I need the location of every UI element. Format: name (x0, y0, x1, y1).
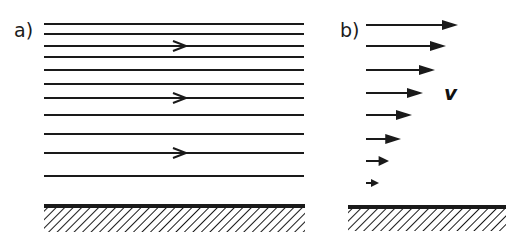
arrow-right-icon (379, 156, 389, 166)
arrow-right-icon (385, 134, 401, 144)
panel-a: a) (14, 19, 305, 232)
arrow-right-icon (396, 110, 412, 120)
arrow-right-icon (371, 179, 379, 187)
panel-b: b) v (340, 19, 506, 231)
wall-hatch (44, 206, 305, 232)
streamlines (44, 24, 304, 176)
streamline-arrow-icons (173, 41, 186, 158)
wall-b (348, 207, 506, 231)
wall-hatch (348, 207, 506, 231)
arrow-right-icon (442, 20, 458, 30)
wall-a (44, 206, 305, 232)
flow-diagram: a) b) v (0, 0, 528, 245)
arrow-right-icon (407, 88, 423, 98)
arrow-right-icon (430, 41, 446, 51)
panel-a-label: a) (14, 19, 33, 41)
arrow-right-icon (419, 65, 435, 75)
panel-b-label: b) (340, 19, 359, 41)
velocity-symbol: v (444, 81, 458, 105)
